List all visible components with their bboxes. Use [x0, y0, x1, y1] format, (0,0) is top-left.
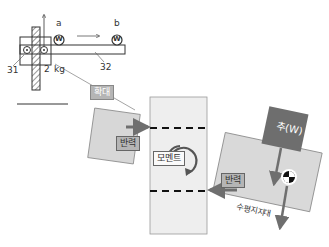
hatched-post: [32, 27, 40, 90]
crane-diagram: [13, 15, 135, 110]
moment-tag: 모멘트: [153, 151, 185, 166]
weight-b-label: W: [113, 36, 121, 43]
label-b: b: [114, 19, 120, 28]
weight-a-label: W: [55, 36, 63, 43]
zoom-tag: 확대: [90, 85, 114, 100]
label-2: 2: [44, 65, 50, 74]
center-of-gravity-icon: [281, 169, 297, 185]
label-kg: kg: [54, 65, 65, 74]
label-a: a: [56, 19, 62, 28]
reaction-tag-right: 반력: [221, 173, 245, 188]
label-31: 31: [7, 66, 18, 75]
moment-diagram: [88, 97, 322, 234]
label-32: 32: [100, 63, 111, 72]
reaction-tag-left: 반력: [116, 136, 140, 151]
